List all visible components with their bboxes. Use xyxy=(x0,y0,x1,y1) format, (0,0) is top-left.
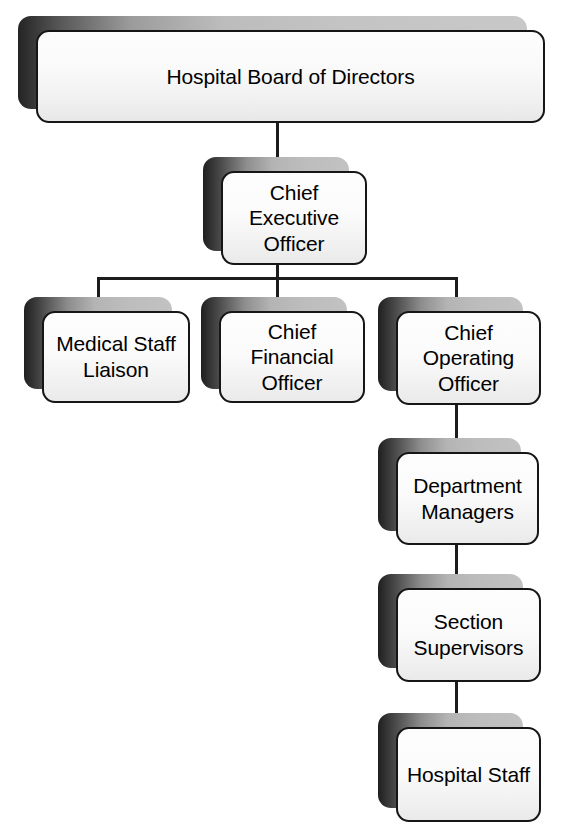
node-chief-financial-officer[interactable]: Chief Financial Officer xyxy=(219,311,365,403)
node-card: Chief Operating Officer xyxy=(396,311,541,405)
node-section-supervisors[interactable]: Section Supervisors xyxy=(396,588,541,682)
node-chief-executive-officer[interactable]: Chief Executive Officer xyxy=(221,171,367,265)
node-card: Department Managers xyxy=(396,452,539,545)
node-medical-staff-liaison[interactable]: Medical Staff Liaison xyxy=(42,311,190,403)
org-chart-canvas: Hospital Board of Directors Chief Execut… xyxy=(0,0,562,838)
node-department-managers[interactable]: Department Managers xyxy=(396,452,539,545)
node-chief-operating-officer[interactable]: Chief Operating Officer xyxy=(396,311,541,405)
node-card: Medical Staff Liaison xyxy=(42,311,190,403)
node-hospital-staff[interactable]: Hospital Staff xyxy=(396,727,541,822)
node-label: Section Supervisors xyxy=(408,609,530,660)
node-card: Hospital Board of Directors xyxy=(36,30,545,123)
node-label: Department Managers xyxy=(407,473,528,524)
node-label: Medical Staff Liaison xyxy=(50,331,182,382)
node-label: Hospital Board of Directors xyxy=(160,64,420,90)
node-card: Chief Financial Officer xyxy=(219,311,365,403)
node-label: Hospital Staff xyxy=(401,762,536,788)
node-label: Chief Executive Officer xyxy=(243,180,345,257)
node-card: Section Supervisors xyxy=(396,588,541,682)
node-label: Chief Operating Officer xyxy=(417,320,520,397)
node-hospital-board-of-directors[interactable]: Hospital Board of Directors xyxy=(36,30,545,123)
node-card: Hospital Staff xyxy=(396,727,541,822)
node-label: Chief Financial Officer xyxy=(244,319,339,396)
node-card: Chief Executive Officer xyxy=(221,171,367,265)
